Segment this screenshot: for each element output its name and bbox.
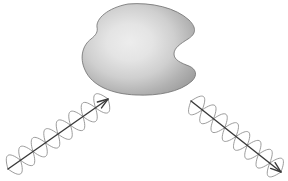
scattering-diagram xyxy=(0,0,288,181)
caption-strip xyxy=(0,173,288,181)
figure-root xyxy=(0,0,288,181)
